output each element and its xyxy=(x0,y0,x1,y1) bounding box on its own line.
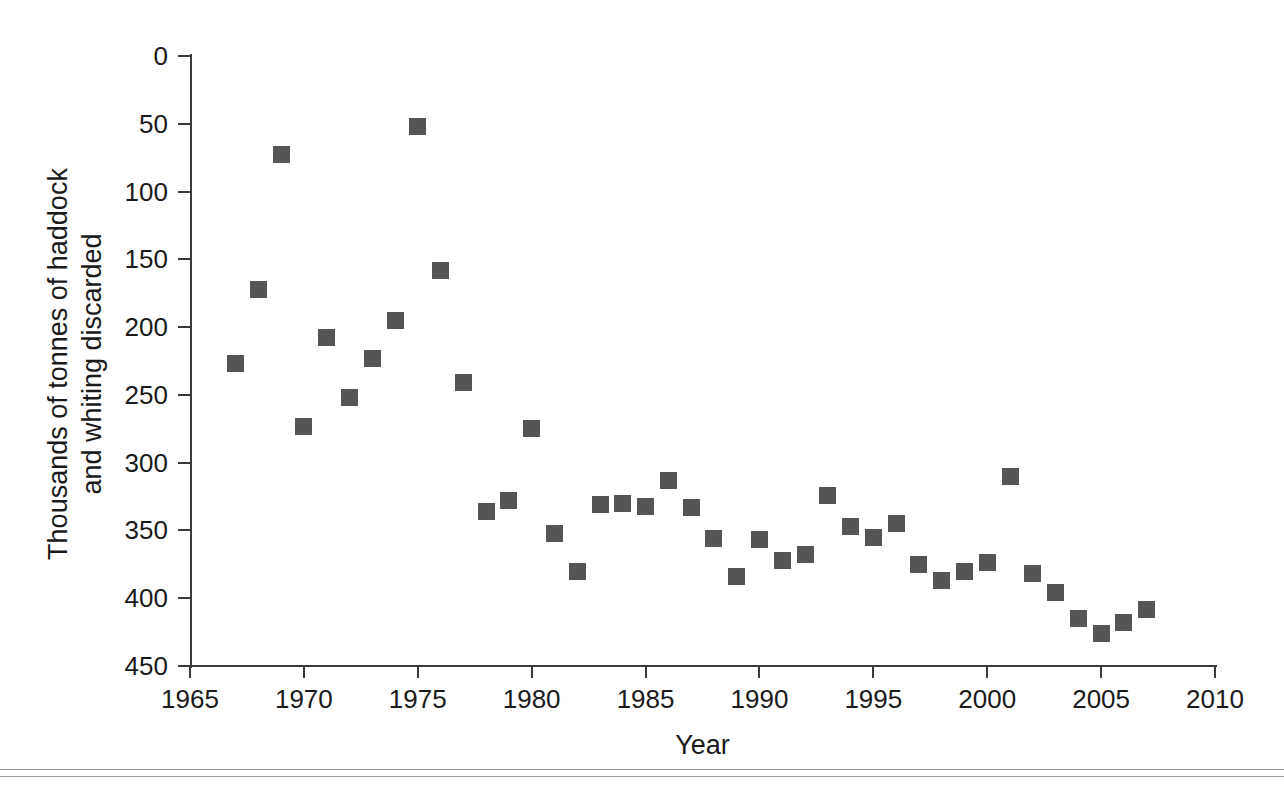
data-point-marker xyxy=(295,418,312,435)
data-point-marker xyxy=(751,531,768,548)
page-caption xyxy=(0,782,1284,812)
x-axis-tick xyxy=(872,666,874,678)
data-point-marker xyxy=(774,552,791,569)
data-point-marker xyxy=(705,530,722,547)
x-axis-tick xyxy=(417,666,419,678)
data-point-marker xyxy=(523,420,540,437)
x-axis-tick-label: 1995 xyxy=(813,684,933,714)
y-axis-tick xyxy=(178,462,190,464)
x-axis-tick xyxy=(303,666,305,678)
data-point-marker xyxy=(683,499,700,516)
data-point-marker xyxy=(933,572,950,589)
data-point-marker xyxy=(1070,610,1087,627)
data-point-marker xyxy=(478,503,495,520)
data-point-marker xyxy=(227,355,244,372)
data-point-marker xyxy=(956,563,973,580)
data-point-marker xyxy=(1115,614,1132,631)
data-point-marker xyxy=(1138,601,1155,618)
y-axis-tick-label: 100 xyxy=(108,179,168,205)
page-rule-top xyxy=(0,769,1284,770)
data-point-marker xyxy=(387,312,404,329)
data-point-marker xyxy=(637,498,654,515)
x-axis-tick xyxy=(189,666,191,678)
y-axis-tick-label: 400 xyxy=(108,585,168,611)
x-axis-tick xyxy=(758,666,760,678)
x-axis-tick xyxy=(1100,666,1102,678)
x-axis-tick xyxy=(645,666,647,678)
scatter-chart-figure: Thousands of tonnes of haddock and whiti… xyxy=(0,0,1284,812)
data-point-marker xyxy=(1093,625,1110,642)
data-point-marker xyxy=(364,350,381,367)
y-axis-tick-label: 350 xyxy=(108,517,168,543)
x-axis-tick xyxy=(1214,666,1216,678)
x-axis-tick-label: 2010 xyxy=(1155,684,1275,714)
y-axis-tick xyxy=(178,529,190,531)
data-point-marker xyxy=(318,329,335,346)
data-point-marker xyxy=(819,487,836,504)
data-point-marker xyxy=(979,554,996,571)
x-axis-tick-label: 1985 xyxy=(586,684,706,714)
data-point-marker xyxy=(500,492,517,509)
data-point-marker xyxy=(910,556,927,573)
data-point-marker xyxy=(432,262,449,279)
x-axis-tick-label: 1970 xyxy=(244,684,364,714)
data-point-marker xyxy=(1024,565,1041,582)
page-rule-bottom xyxy=(0,776,1284,777)
x-axis-tick-label: 2005 xyxy=(1041,684,1161,714)
x-axis-tick-label: 2000 xyxy=(927,684,1047,714)
data-point-marker xyxy=(865,529,882,546)
y-axis-tick xyxy=(178,597,190,599)
y-axis-tick-label: 50 xyxy=(108,111,168,137)
y-axis-title-line-1: Thousands of tonnes of haddock xyxy=(41,84,75,644)
data-point-marker xyxy=(660,472,677,489)
y-axis-title: Thousands of tonnes of haddock and whiti… xyxy=(41,84,109,644)
y-axis-tick xyxy=(178,326,190,328)
y-axis-tick xyxy=(178,191,190,193)
data-point-marker xyxy=(614,495,631,512)
data-point-marker xyxy=(797,546,814,563)
y-axis-title-line-2: and whiting discarded xyxy=(75,84,109,644)
y-axis-tick xyxy=(178,258,190,260)
data-point-marker xyxy=(842,518,859,535)
data-point-marker xyxy=(455,374,472,391)
y-axis-tick-label: 450 xyxy=(108,653,168,679)
data-point-marker xyxy=(273,146,290,163)
data-point-marker xyxy=(250,281,267,298)
y-axis-tick xyxy=(178,394,190,396)
data-point-marker xyxy=(569,563,586,580)
y-axis-tick xyxy=(178,123,190,125)
data-point-marker xyxy=(592,496,609,513)
data-point-marker xyxy=(728,568,745,585)
y-axis-tick xyxy=(178,55,190,57)
x-axis-tick xyxy=(986,666,988,678)
x-axis-title: Year xyxy=(190,730,1215,760)
data-point-marker xyxy=(409,118,426,135)
x-axis-tick-label: 1975 xyxy=(358,684,478,714)
data-point-marker xyxy=(1002,468,1019,485)
x-axis-tick xyxy=(531,666,533,678)
plot-area xyxy=(190,56,1215,666)
y-axis-tick-label: 0 xyxy=(108,43,168,69)
data-point-marker xyxy=(1047,584,1064,601)
data-point-marker xyxy=(546,525,563,542)
x-axis-tick-label: 1965 xyxy=(130,684,250,714)
y-axis-tick-label: 250 xyxy=(108,382,168,408)
y-axis-tick-label: 150 xyxy=(108,246,168,272)
x-axis-tick-label: 1980 xyxy=(472,684,592,714)
data-point-marker xyxy=(888,515,905,532)
y-axis-tick-label: 200 xyxy=(108,314,168,340)
y-axis-tick-label: 300 xyxy=(108,450,168,476)
data-point-marker xyxy=(341,389,358,406)
x-axis-tick-label: 1990 xyxy=(699,684,819,714)
